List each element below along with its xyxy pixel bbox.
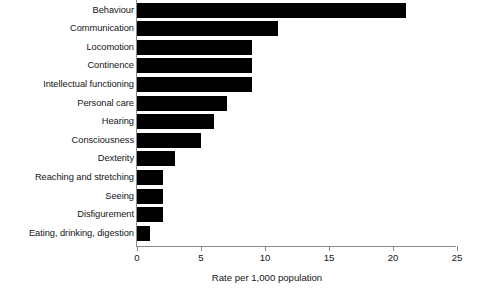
bar — [137, 133, 201, 148]
x-axis-title: Rate per 1,000 population — [0, 272, 478, 283]
bar — [137, 170, 163, 185]
bar — [137, 151, 175, 166]
bar — [137, 21, 278, 36]
x-axis-line — [136, 246, 456, 247]
bar — [137, 207, 163, 222]
category-label: Continence — [0, 60, 134, 70]
category-label: Reaching and stretching — [0, 172, 134, 182]
bar-chart: BehaviourCommunicationLocomotionContinen… — [0, 0, 478, 293]
category-label: Seeing — [0, 191, 134, 201]
bar — [137, 40, 252, 55]
category-label: Eating, drinking, digestion — [0, 228, 134, 238]
x-axis-tick — [137, 246, 138, 251]
bar — [137, 3, 406, 18]
plot-area — [137, 0, 478, 246]
bar — [137, 77, 252, 92]
x-axis-tick-label: 20 — [388, 252, 399, 263]
category-label: Hearing — [0, 116, 134, 126]
x-axis-tick-label: 10 — [260, 252, 271, 263]
x-axis-tick — [457, 246, 458, 251]
category-label: Dexterity — [0, 153, 134, 163]
x-axis-tick-label: 25 — [452, 252, 463, 263]
x-axis-tick — [265, 246, 266, 251]
bar — [137, 226, 150, 241]
category-label: Behaviour — [0, 5, 134, 15]
bar — [137, 114, 214, 129]
x-axis-tick — [329, 246, 330, 251]
category-label: Consciousness — [0, 135, 134, 145]
bar — [137, 96, 227, 111]
bar — [137, 189, 163, 204]
x-axis-tick-label: 15 — [324, 252, 335, 263]
category-axis: BehaviourCommunicationLocomotionContinen… — [0, 0, 134, 246]
bar — [137, 58, 252, 73]
category-label: Personal care — [0, 98, 134, 108]
x-axis-tick-label: 0 — [134, 252, 139, 263]
category-label: Intellectual functioning — [0, 79, 134, 89]
x-axis-tick — [201, 246, 202, 251]
category-label: Communication — [0, 23, 134, 33]
category-label: Locomotion — [0, 42, 134, 52]
y-axis-spine — [136, 0, 137, 246]
category-label: Disfigurement — [0, 209, 134, 219]
x-axis-tick-label: 5 — [198, 252, 203, 263]
x-axis-tick — [393, 246, 394, 251]
